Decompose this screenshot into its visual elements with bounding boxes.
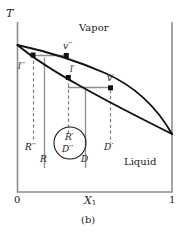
- label-D-double-prime: D′′: [62, 145, 73, 154]
- liquid-region-label: Liquid: [124, 157, 156, 167]
- phase-diagram-figure: T Vapor Liquid l′′ v′′ l′ v′ R′′ R D D′ …: [0, 0, 182, 234]
- vapor-region-label: Vapor: [79, 23, 108, 33]
- point-label-l-prime: l′: [70, 65, 75, 74]
- label-R-double-prime: R′′: [25, 143, 36, 152]
- point-label-v-double-prime: v′′: [63, 42, 72, 51]
- label-R: R: [40, 155, 47, 164]
- y-axis-label: T: [6, 8, 13, 19]
- x-axis-tick-1: 1: [169, 195, 175, 205]
- x-axis-label-subscript: 1: [92, 199, 96, 207]
- vapor-curve: [18, 45, 173, 134]
- marker-v-prime: [108, 85, 113, 90]
- x-axis-label: X1: [84, 195, 96, 207]
- x-axis-label-main: X: [84, 194, 92, 207]
- figure-caption: (b): [81, 215, 95, 225]
- label-D: D: [81, 155, 88, 164]
- liquid-curve: [18, 45, 173, 134]
- label-R-prime: R′: [65, 133, 74, 142]
- label-D-prime: D′: [104, 143, 113, 152]
- marker-v-double-prime: [64, 53, 69, 58]
- marker-l-double-prime: [31, 53, 36, 58]
- point-label-v-prime: v′: [107, 74, 114, 83]
- point-label-l-double-prime: l′′: [18, 62, 25, 71]
- marker-l-prime: [66, 75, 71, 80]
- x-axis-tick-0: 0: [14, 195, 20, 205]
